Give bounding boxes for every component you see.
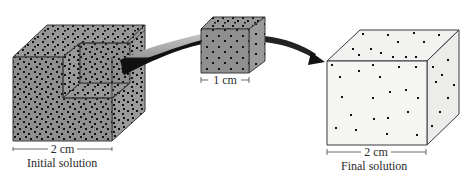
final-solution-cube: 2 cm Final solution — [327, 30, 459, 173]
initial-solution-cube: 2 cm Initial solution — [13, 25, 145, 170]
arrow-segment-2 — [264, 36, 316, 58]
initial-caption: Initial solution — [27, 156, 97, 170]
initial-dimension: 2 cm — [13, 142, 112, 156]
initial-dimension-label: 2 cm — [51, 142, 75, 156]
final-caption: Final solution — [341, 159, 407, 173]
final-dimension-label: 2 cm — [364, 145, 388, 159]
sample-dimension: 1 cm — [201, 73, 249, 87]
sample-cube-front-face — [201, 29, 249, 73]
sample-cube: 1 cm — [201, 17, 265, 87]
final-dimension: 2 cm — [327, 145, 426, 159]
sample-dimension-label: 1 cm — [213, 73, 237, 87]
dilution-diagram: 2 cm Initial solution 1 cm — [0, 0, 472, 178]
final-cube-front-face — [327, 61, 427, 145]
